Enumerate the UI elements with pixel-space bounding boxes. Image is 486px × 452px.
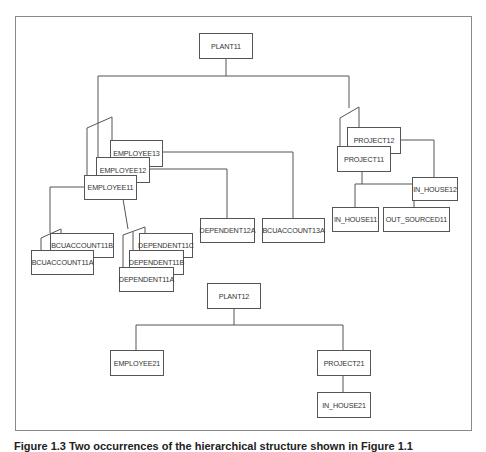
node-plant12: PLANT12: [207, 283, 261, 309]
node-in-house12: IN_HOUSE12: [412, 177, 458, 201]
node-dependent12a: DEPENDENT12A: [200, 218, 255, 243]
node-bcuaccount11a: BCUACCOUNT11A: [31, 250, 94, 275]
node-in-house11: IN_HOUSE11: [332, 207, 379, 232]
node-plant11: PLANT11: [199, 33, 253, 59]
node-dependent11a: DEPENDENT11A: [119, 267, 174, 292]
figure-caption: Figure 1.3 Two occurrences of the hierar…: [14, 440, 413, 452]
node-employee21: EMPLOYEE21: [110, 350, 164, 376]
node-project21: PROJECT21: [317, 350, 371, 376]
node-project11: PROJECT11: [337, 146, 391, 172]
node-employee11: EMPLOYEE11: [84, 175, 137, 200]
node-in-house21: IN_HOUSE21: [317, 392, 371, 418]
node-out-sourced11: OUT_SOURCED11: [383, 207, 450, 232]
node-bcuaccount13a: BCUACCOUNT13A: [262, 218, 325, 243]
